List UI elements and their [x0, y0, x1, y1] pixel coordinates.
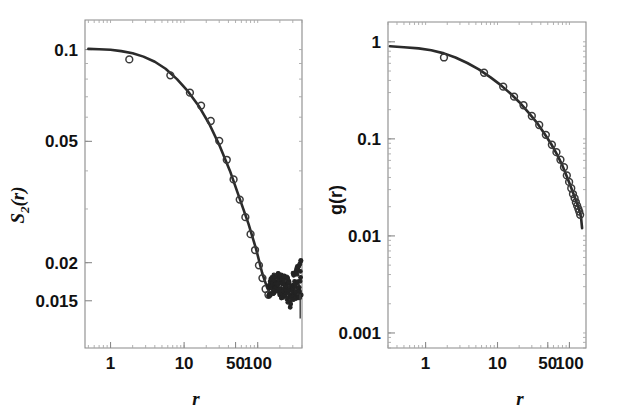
y-tick-label: 0.02 — [45, 254, 78, 273]
noise-marker — [295, 272, 299, 276]
x-tick-label: 1 — [106, 354, 115, 373]
figure-container: 110501000.10.050.020.015 S2(r) r 1105010… — [0, 0, 638, 415]
x-tick-label: 1 — [421, 354, 430, 373]
y-tick-label: 0.05 — [45, 132, 78, 151]
noise-marker — [287, 281, 291, 285]
x-tick-label: 50 — [226, 354, 245, 373]
y-axis-title-right: g(r) — [326, 185, 346, 215]
noise-marker — [289, 302, 293, 306]
noise-marker — [299, 275, 303, 279]
data-curve — [88, 49, 300, 295]
noise-marker — [298, 279, 302, 283]
data-marker — [441, 54, 448, 61]
svg-text:S2(r): S2(r) — [7, 186, 32, 223]
panel-g-svg: 1105010010.10.010.001 g(r) r — [320, 0, 638, 415]
y-axis-title-left: S2(r) — [7, 186, 32, 223]
panel-s2-svg: 110501000.10.050.020.015 S2(r) r — [0, 0, 320, 415]
data-curve — [390, 46, 582, 228]
y-tick-label: 0.01 — [348, 227, 381, 246]
y-tick-label: 0.015 — [35, 292, 78, 311]
x-tick-label: 100 — [244, 354, 272, 373]
panel-s2: 110501000.10.050.020.015 S2(r) r — [0, 0, 320, 415]
x-axis-title-left: r — [192, 388, 200, 409]
noise-marker — [298, 269, 302, 273]
y-title-tail-left: (r) — [7, 186, 29, 206]
y-title-base-left: S — [7, 213, 28, 224]
x-tick-label: 100 — [555, 354, 583, 373]
x-tick-label: 10 — [488, 354, 507, 373]
noise-marker — [299, 259, 303, 263]
x-axis-title-right: r — [516, 388, 524, 409]
panel-g: 1105010010.10.010.001 g(r) r — [320, 0, 638, 415]
y-tick-label: 1 — [372, 33, 381, 52]
y-tick-label: 0.001 — [338, 324, 381, 343]
y-tick-label: 0.1 — [357, 130, 381, 149]
data-marker — [126, 56, 133, 63]
x-tick-label: 10 — [175, 354, 194, 373]
plot-frame — [85, 20, 302, 348]
y-tick-label: 0.1 — [54, 41, 78, 60]
